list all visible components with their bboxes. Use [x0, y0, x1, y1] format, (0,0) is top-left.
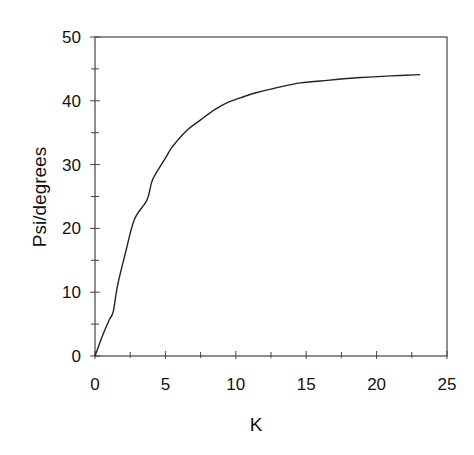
x-axis-ticks: 0510152025	[90, 351, 456, 394]
y-tick-label: 0	[72, 347, 81, 366]
x-tick-label: 25	[438, 375, 457, 394]
y-tick-label: 20	[62, 219, 81, 238]
x-tick-label: 5	[161, 375, 170, 394]
psi-vs-k-chart: 01020304050 0510152025 K Psi/degrees	[0, 0, 474, 455]
x-tick-label: 15	[297, 375, 316, 394]
y-tick-label: 10	[62, 283, 81, 302]
y-tick-label: 30	[62, 156, 81, 175]
x-tick-label: 10	[226, 375, 245, 394]
y-axis-title: Psi/degrees	[29, 147, 50, 247]
y-tick-label: 40	[62, 92, 81, 111]
psi-curve	[95, 75, 420, 356]
x-tick-label: 0	[90, 375, 99, 394]
y-tick-label: 50	[62, 28, 81, 47]
x-axis-title: K	[250, 414, 263, 435]
y-axis-ticks: 01020304050	[62, 28, 100, 366]
data-series	[95, 75, 420, 356]
x-tick-label: 20	[367, 375, 386, 394]
